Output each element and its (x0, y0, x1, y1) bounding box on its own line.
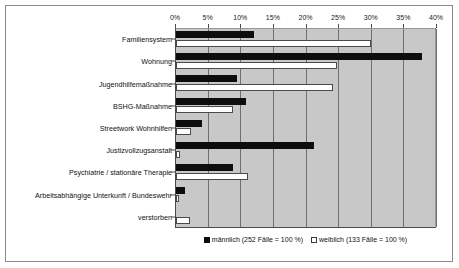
category-tick (171, 216, 175, 217)
bar-weiblich (176, 217, 190, 224)
bar-männlich (176, 142, 314, 149)
chart-legend: männlich (252 Fälle = 100 %)weiblich (13… (175, 236, 436, 243)
legend-item: männlich (252 Fälle = 100 %) (204, 236, 303, 243)
bar-männlich (176, 53, 422, 60)
bar-weiblich (176, 151, 180, 158)
bar-rows: FamiliensystemWohnungJugendhilfemaßnahme… (0, 28, 459, 228)
bar-weiblich (176, 62, 337, 69)
bar-weiblich (176, 106, 233, 113)
bar-row: Psychiatrie / stationäre Therapie (0, 161, 459, 183)
category-tick (171, 127, 175, 128)
bar-weiblich (176, 128, 191, 135)
category-label: BSHG-Maßnahme (113, 101, 172, 110)
category-label: Arbeitsabhängige Unterkunft / Bundeswehr (35, 190, 172, 199)
legend-swatch-female-icon (311, 237, 317, 243)
bar-row: Streetwork Wohnhilfen (0, 117, 459, 139)
category-tick (171, 172, 175, 173)
bar-weiblich (176, 195, 179, 202)
category-label: verstorben (138, 212, 172, 221)
bar-row: Arbeitsabhängige Unterkunft / Bundeswehr (0, 184, 459, 206)
legend-swatch-male-icon (204, 237, 210, 243)
bar-männlich (176, 120, 202, 127)
bar-row: verstorben (0, 206, 459, 228)
category-tick (171, 39, 175, 40)
category-label: Psychiatrie / stationäre Therapie (69, 168, 172, 177)
category-tick (171, 150, 175, 151)
bar-männlich (176, 98, 246, 105)
category-tick (171, 105, 175, 106)
category-label: Familiensystem (122, 35, 172, 44)
bar-männlich (176, 31, 254, 38)
bar-männlich (176, 164, 233, 171)
category-label: Justizvollzugsanstalt (106, 146, 172, 155)
category-label: Wohnung (141, 57, 172, 66)
bar-row: Familiensystem (0, 28, 459, 50)
legend-item: weiblich (133 Fälle = 100 %) (311, 236, 407, 243)
chart-figure: 0%5%10%15%20%25%30%35%40% Familiensystem… (0, 0, 459, 268)
category-label: Streetwork Wohnhilfen (100, 123, 172, 132)
bar-weiblich (176, 40, 371, 47)
bar-männlich (176, 75, 237, 82)
legend-label: weiblich (133 Fälle = 100 %) (319, 236, 407, 243)
legend-label: männlich (252 Fälle = 100 %) (212, 236, 303, 243)
bar-weiblich (176, 173, 248, 180)
category-label: Jugendhilfemaßnahme (99, 79, 172, 88)
category-tick (171, 194, 175, 195)
bar-männlich (176, 187, 185, 194)
category-tick (171, 61, 175, 62)
category-tick (171, 83, 175, 84)
bar-row: Jugendhilfemaßnahme (0, 72, 459, 94)
bar-row: BSHG-Maßnahme (0, 95, 459, 117)
bar-row: Wohnung (0, 50, 459, 72)
bar-weiblich (176, 84, 333, 91)
bar-row: Justizvollzugsanstalt (0, 139, 459, 161)
